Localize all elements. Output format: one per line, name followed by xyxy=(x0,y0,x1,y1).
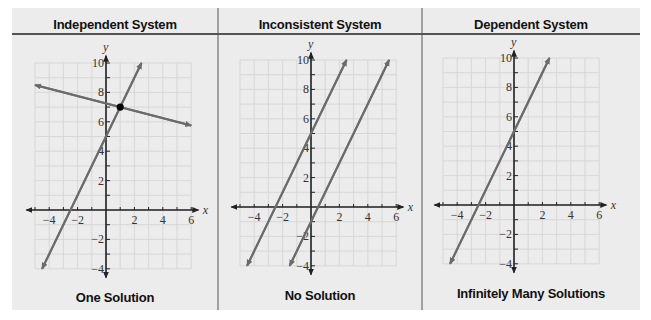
y-tick-label: 10 xyxy=(92,56,104,70)
y-tick-label: 2 xyxy=(303,171,309,185)
x-tick-label: 2 xyxy=(336,210,342,224)
panel-caption-no-solution: No Solution xyxy=(218,288,422,303)
chart-panel-0: −4−2246−4−2246810xy xyxy=(26,40,208,277)
panel-title-dependent: Dependent System xyxy=(422,17,640,32)
y-tick-label: 6 xyxy=(303,112,309,126)
panel-caption-one-solution: One Solution xyxy=(12,290,218,305)
x-tick-label: 4 xyxy=(365,210,371,224)
y-tick-label: −2 xyxy=(499,227,512,241)
y-tick-label: 6 xyxy=(98,115,104,129)
x-tick-label: 4 xyxy=(160,213,166,227)
x-tick-label: −4 xyxy=(248,210,261,224)
y-axis-label: y xyxy=(307,37,314,51)
y-tick-label: 8 xyxy=(506,80,512,94)
x-tick-label: 4 xyxy=(568,208,574,222)
x-axis-label: x xyxy=(610,198,617,212)
x-tick-label: −4 xyxy=(451,208,464,222)
x-tick-label: −2 xyxy=(276,210,289,224)
plots-canvas: −4−2246−4−2246810xy−4−2246−4−2246810xy−4… xyxy=(12,8,640,310)
y-tick-label: −2 xyxy=(91,232,104,246)
x-tick-label: 6 xyxy=(596,208,602,222)
panel-title-independent: Independent System xyxy=(12,17,218,32)
x-tick-label: 6 xyxy=(188,213,194,227)
y-tick-label: 8 xyxy=(98,85,104,99)
y-tick-label: 10 xyxy=(500,51,512,65)
y-tick-label: 10 xyxy=(297,53,309,67)
y-tick-label: 2 xyxy=(98,174,104,188)
x-tick-label: 2 xyxy=(539,208,545,222)
y-tick-label: 2 xyxy=(506,169,512,183)
y-axis-label: y xyxy=(510,35,517,49)
x-axis-label: x xyxy=(202,203,209,217)
x-axis-label: x xyxy=(407,200,414,214)
x-tick-label: −2 xyxy=(71,213,84,227)
y-axis-label: y xyxy=(102,40,109,54)
x-tick-label: 6 xyxy=(393,210,399,224)
y-tick-label: −4 xyxy=(499,257,512,271)
chart-panel-1: −4−2246−4−2246810xy xyxy=(231,37,413,274)
x-tick-label: 2 xyxy=(131,213,137,227)
panel-caption-infinitely-many: Infinitely Many Solutions xyxy=(422,286,640,301)
y-tick-label: −4 xyxy=(91,262,104,276)
x-tick-label: −2 xyxy=(479,208,492,222)
intersection-point xyxy=(117,104,124,111)
y-tick-label: 6 xyxy=(506,110,512,124)
y-tick-label: −4 xyxy=(296,259,309,273)
chart-panel-2: −4−2246−4−2246810xy xyxy=(434,35,616,272)
systems-of-equations-figure: −4−2246−4−2246810xy−4−2246−4−2246810xy−4… xyxy=(12,8,640,310)
x-tick-label: −4 xyxy=(43,213,56,227)
y-tick-label: 8 xyxy=(303,82,309,96)
panel-title-inconsistent: Inconsistent System xyxy=(218,17,422,32)
